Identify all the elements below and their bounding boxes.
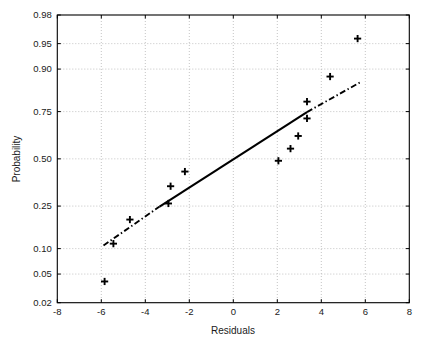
x-tick-label: 2 [275, 306, 280, 317]
lower-extension [104, 207, 160, 246]
x-tick-label: 4 [319, 306, 324, 317]
plot-canvas: -8-6-4-202468 0.020.050.100.250.500.750.… [0, 0, 430, 347]
y-tick-label: 0.90 [33, 63, 52, 74]
x-tick-labels: -8-6-4-202468 [53, 306, 412, 317]
y-axis-label: Probability [11, 136, 22, 183]
y-tick-labels: 0.020.050.100.250.500.750.900.950.98 [33, 9, 52, 308]
data-point-marker [303, 115, 310, 122]
data-point-marker [327, 73, 334, 80]
data-point-marker [181, 168, 188, 175]
y-tick-label: 0.25 [33, 200, 52, 211]
upper-extension [307, 83, 360, 112]
y-tick-label: 0.10 [33, 243, 52, 254]
x-axis-label: Residuals [211, 325, 255, 336]
data-point-marker [167, 183, 174, 190]
x-tick-label: -2 [185, 306, 193, 317]
data-point-marker [110, 240, 117, 247]
x-tick-label: -6 [97, 306, 105, 317]
data-point-marker [101, 278, 108, 285]
y-tick-label: 0.95 [33, 38, 52, 49]
y-tick-label: 0.50 [33, 153, 52, 164]
data-point-marker [295, 132, 302, 139]
data-point-marker [126, 216, 133, 223]
x-tick-label: 6 [363, 306, 368, 317]
fit-lines [104, 83, 360, 246]
x-tick-label: 0 [231, 306, 236, 317]
x-tick-label: -8 [53, 306, 61, 317]
data-point-marker [275, 157, 282, 164]
y-tick-label: 0.98 [33, 9, 52, 20]
y-tick-label: 0.75 [33, 106, 52, 117]
data-point-marker [303, 98, 310, 105]
normal-probability-plot-figure: -8-6-4-202468 0.020.050.100.250.500.750.… [0, 0, 430, 347]
x-tick-label: -4 [141, 306, 149, 317]
x-tick-label: 8 [407, 306, 412, 317]
data-point-marker [354, 35, 361, 42]
data-point-marker [287, 145, 294, 152]
y-tick-label: 0.05 [33, 268, 52, 279]
y-tick-label: 0.02 [33, 297, 52, 308]
